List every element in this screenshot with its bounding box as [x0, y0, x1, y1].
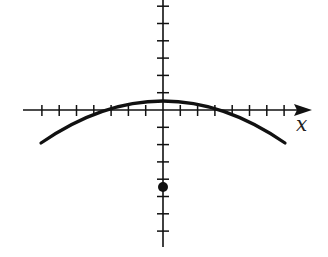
y-axis: [157, 0, 169, 247]
point-marker: [158, 182, 168, 192]
x-axis-label: x: [296, 112, 307, 136]
chart-plot: x: [0, 0, 328, 257]
